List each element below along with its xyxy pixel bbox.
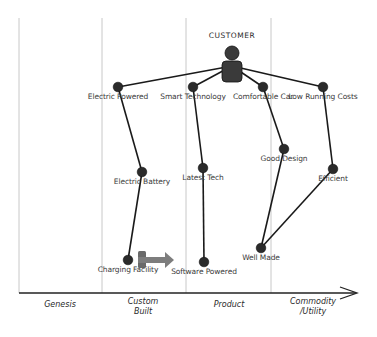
component-node-electric-powered[interactable] xyxy=(113,82,123,92)
evolution-arrow-head xyxy=(165,252,174,268)
component-node-electric-battery[interactable] xyxy=(137,167,147,177)
component-node-latest-tech[interactable] xyxy=(198,163,208,173)
user-body xyxy=(222,61,242,82)
evolution-arrow-shaft xyxy=(138,257,166,263)
stage-label-custom-built: CustomBuilt xyxy=(128,297,159,317)
component-label-low-running-costs: Low Running Costs xyxy=(288,92,357,101)
stage-label-line1: Custom xyxy=(128,297,159,307)
dependency-link xyxy=(232,66,323,87)
wardley-map-canvas xyxy=(0,0,377,337)
component-node-efficient[interactable] xyxy=(328,164,338,174)
component-node-well-made[interactable] xyxy=(256,243,266,253)
component-node-good-design[interactable] xyxy=(279,144,289,154)
component-node-smart-technology[interactable] xyxy=(188,82,198,92)
stage-label-line2: Built xyxy=(128,307,159,317)
stage-label-line1: Genesis xyxy=(44,300,76,310)
stage-label-line1: Product xyxy=(214,300,245,310)
stage-label-genesis: Genesis xyxy=(44,300,76,310)
component-label-comfortable-car: Comfortable Car xyxy=(233,92,293,101)
stage-label-line2: /Utility xyxy=(290,307,336,317)
component-label-software-powered: Software Powered xyxy=(171,267,237,276)
stage-label-commodity-utility: Commodity/Utility xyxy=(290,297,336,317)
components xyxy=(113,82,338,267)
component-node-comfortable-car[interactable] xyxy=(258,82,268,92)
component-label-good-design: Good Design xyxy=(261,154,308,163)
customer-label: CUSTOMER xyxy=(209,31,255,40)
component-label-efficient: Efficient xyxy=(318,174,348,183)
component-label-well-made: Well Made xyxy=(242,253,280,262)
user-head xyxy=(225,46,239,60)
component-label-charging-facility: Charging Facility xyxy=(98,265,159,274)
stage-label-line1: Commodity xyxy=(290,297,336,307)
component-label-electric-battery: Electric Battery xyxy=(114,177,170,186)
component-label-smart-technology: Smart Technology xyxy=(160,92,225,101)
dependency-link xyxy=(261,149,284,248)
component-label-latest-tech: Latest Tech xyxy=(182,173,223,182)
stage-label-product: Product xyxy=(214,300,245,310)
dependency-link xyxy=(203,168,204,262)
customer-user-icon xyxy=(222,46,242,82)
component-label-electric-powered: Electric Powered xyxy=(88,92,148,101)
component-node-low-running-costs[interactable] xyxy=(318,82,328,92)
component-node-software-powered[interactable] xyxy=(199,257,209,267)
dependency-link xyxy=(118,66,232,87)
component-node-charging-facility[interactable] xyxy=(123,255,133,265)
